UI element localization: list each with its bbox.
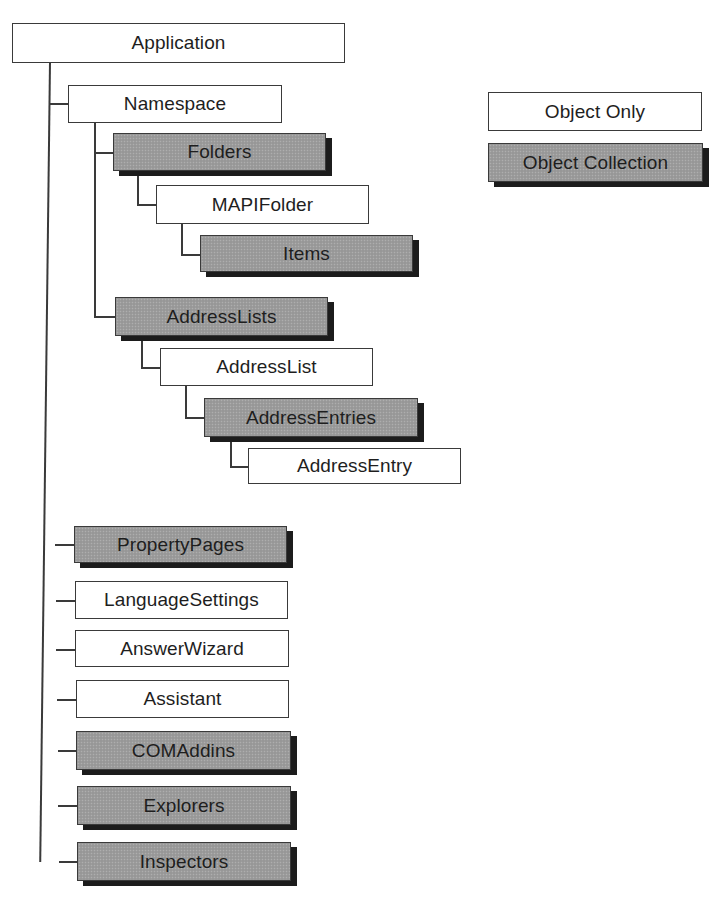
connector-assistant [57,699,76,701]
connector-addresslist [141,367,160,369]
node-label: Namespace [124,93,226,115]
node-namespace: Namespace [68,85,282,123]
node-label: Inspectors [140,851,229,873]
node-comaddins: COMAddins [76,731,291,770]
node-languagesettings: LanguageSettings [75,581,288,619]
connector-items [181,254,200,256]
connector-explorers [58,805,77,807]
connector-addresslist-trunk [185,386,187,417]
connector-mapifolder-trunk [181,224,183,254]
node-label: AddressList [216,356,316,378]
connector-application-trunk [39,62,50,862]
connector-inspectors [59,861,77,863]
node-label: Folders [187,141,251,163]
connector-folders [94,152,113,154]
node-assistant: Assistant [76,680,289,718]
object-model-diagram: Application Namespace Folders MAPIFolder… [0,0,727,899]
legend-object-only: Object Only [488,92,702,131]
node-label: AddressLists [167,306,277,328]
node-application: Application [12,23,345,63]
node-label: Application [131,32,225,54]
connector-addresslists-trunk [141,341,143,367]
node-label: PropertyPages [117,534,244,556]
node-answerwizard: AnswerWizard [75,630,289,667]
connector-mapifolder [137,204,156,206]
connector-namespace [49,103,68,105]
legend-object-collection: Object Collection [488,143,703,182]
node-inspectors: Inspectors [77,842,291,881]
node-addresslists: AddressLists [115,297,328,336]
node-label: Items [283,243,330,265]
node-label: COMAddins [132,740,235,762]
node-mapifolder: MAPIFolder [156,185,369,224]
node-label: AnswerWizard [120,638,244,660]
legend-label: Object Collection [523,152,668,174]
connector-addressentry [230,466,248,468]
node-label: LanguageSettings [104,589,259,611]
node-label: MAPIFolder [212,194,313,216]
connector-addressentries-trunk [230,442,232,466]
node-items: Items [200,235,413,272]
legend-label: Object Only [545,101,645,123]
node-label: Explorers [143,795,224,817]
node-folders: Folders [113,133,326,171]
node-addresslist: AddressList [160,348,373,386]
connector-addresslists [94,316,115,318]
connector-languagesettings [56,600,75,602]
connector-propertypages [55,544,74,546]
connector-comaddins [58,750,76,752]
connector-folders-trunk [137,176,139,204]
node-label: Assistant [144,688,222,710]
node-addressentry: AddressEntry [248,448,461,484]
node-explorers: Explorers [77,786,291,825]
node-label: AddressEntry [297,455,412,477]
node-addressentries: AddressEntries [204,398,418,437]
connector-addressentries [185,417,204,419]
connector-answerwizard [56,649,75,651]
node-label: AddressEntries [246,407,376,429]
node-propertypages: PropertyPages [74,526,287,563]
